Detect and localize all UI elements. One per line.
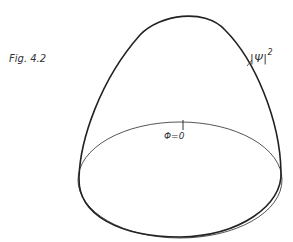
psi-label-exponent: 2 bbox=[268, 48, 274, 57]
psi-label-text: |Ψ| bbox=[250, 52, 268, 65]
probability-density-diagram bbox=[0, 0, 293, 242]
figure-caption: Fig. 4.2 bbox=[9, 53, 46, 64]
phi-zero-label: Φ=0 bbox=[164, 131, 184, 141]
psi-squared-label: |Ψ|2 bbox=[250, 50, 273, 65]
